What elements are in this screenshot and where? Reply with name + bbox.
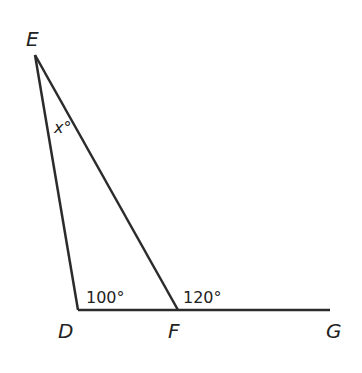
vertex-label-g: G: [326, 319, 342, 343]
triangle-diagram: E D F G x° 100° 120°: [0, 0, 362, 373]
angle-label-d: 100°: [86, 288, 125, 307]
angle-label-f-exterior: 120°: [183, 288, 222, 307]
vertex-label-e: E: [26, 27, 39, 51]
vertex-label-f: F: [168, 319, 180, 343]
vertex-label-d: D: [58, 319, 73, 343]
angle-label-x: x°: [53, 118, 71, 137]
